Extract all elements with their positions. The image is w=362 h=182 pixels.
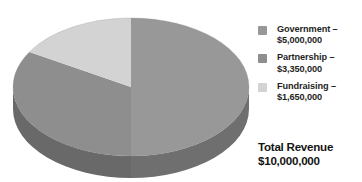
fundraising-swatch-icon	[258, 83, 267, 92]
legend-government-name: Government –	[277, 24, 362, 35]
revenue-pie-figure: Government – $5,000,000 Partnership – $3…	[0, 0, 362, 182]
total-revenue-amount: $10,000,000	[258, 154, 362, 168]
pie-top-face	[13, 18, 249, 156]
legend-fundraising-name: Fundraising –	[277, 81, 362, 92]
legend-government-value: $5,000,000	[277, 35, 362, 46]
total-revenue-caption: Total Revenue	[258, 140, 362, 154]
pie-chart-svg	[0, 0, 252, 182]
legend-partnership-value: $3,350,000	[277, 64, 362, 75]
legend-item-fundraising: Fundraising – $1,650,000	[258, 81, 362, 103]
legend-partnership-name: Partnership –	[277, 52, 362, 63]
partnership-swatch-icon	[258, 54, 267, 63]
pie-chart	[0, 0, 252, 182]
government-swatch-icon	[258, 26, 267, 35]
legend-item-government: Government – $5,000,000	[258, 24, 362, 46]
legend-item-partnership: Partnership – $3,350,000	[258, 52, 362, 74]
total-revenue-block: Total Revenue $10,000,000	[258, 140, 362, 168]
chart-legend: Government – $5,000,000 Partnership – $3…	[258, 24, 362, 109]
legend-fundraising-value: $1,650,000	[277, 92, 362, 103]
